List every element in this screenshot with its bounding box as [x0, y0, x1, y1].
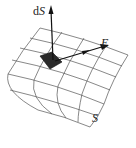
surface-grid-graphic — [0, 0, 136, 148]
ds-normal-arrow — [49, 5, 54, 60]
e-label: E — [101, 37, 108, 49]
ds-label: dS — [33, 5, 45, 17]
surface-label: S — [92, 112, 98, 124]
flux-surface-diagram: dS E S — [0, 0, 136, 148]
figure-caption — [0, 139, 136, 145]
surface-grid — [8, 28, 128, 127]
ds-label-symbol: S — [39, 4, 45, 18]
surface-element-patch — [40, 52, 62, 69]
